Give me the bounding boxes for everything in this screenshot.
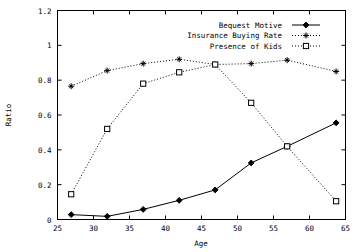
data-series xyxy=(69,62,339,204)
data-series xyxy=(68,120,339,219)
series-markers xyxy=(69,62,339,204)
x-tick-label: 35 xyxy=(125,224,134,233)
y-tick-label: 0.8 xyxy=(38,76,52,85)
data-series-group xyxy=(68,56,339,219)
series-line xyxy=(71,123,336,217)
legend-marker xyxy=(303,33,309,39)
plot-frame xyxy=(58,11,346,220)
x-tick-label: 60 xyxy=(305,224,315,233)
series-markers xyxy=(68,56,339,89)
legend-label: Presence of Kids xyxy=(210,42,282,51)
x-tick-label: 30 xyxy=(89,224,99,233)
x-tick-label: 50 xyxy=(233,224,243,233)
y-axis-label: Ratio xyxy=(4,103,13,126)
y-tick-label: 0 xyxy=(47,216,52,225)
x-tick-label: 65 xyxy=(341,224,350,233)
line-chart: 253035404550556065 00.20.40.60.811.2 Beq… xyxy=(0,0,359,252)
data-series xyxy=(68,56,339,89)
x-tick-label: 25 xyxy=(53,224,62,233)
y-tick-label: 1.2 xyxy=(38,7,52,16)
x-tick-label: 45 xyxy=(197,224,206,233)
legend-marker xyxy=(303,43,308,48)
x-tick-label: 40 xyxy=(161,224,171,233)
chart-container: 253035404550556065 00.20.40.60.811.2 Beq… xyxy=(0,0,359,252)
y-tick-label: 1 xyxy=(47,41,52,50)
chart-legend: Bequest MotiveInsurance Buying RatePrese… xyxy=(187,21,320,51)
legend-marker xyxy=(303,22,309,28)
legend-label: Bequest Motive xyxy=(219,21,283,30)
series-line xyxy=(71,59,336,86)
y-tick-label: 0.6 xyxy=(38,111,52,120)
legend-label: Insurance Buying Rate xyxy=(187,31,282,40)
x-tick-label: 55 xyxy=(269,224,278,233)
series-markers xyxy=(68,120,339,219)
y-tick-label: 0.2 xyxy=(38,181,52,190)
x-axis-label: Age xyxy=(194,239,208,248)
y-tick-label: 0.4 xyxy=(38,146,52,155)
series-line xyxy=(71,64,336,201)
